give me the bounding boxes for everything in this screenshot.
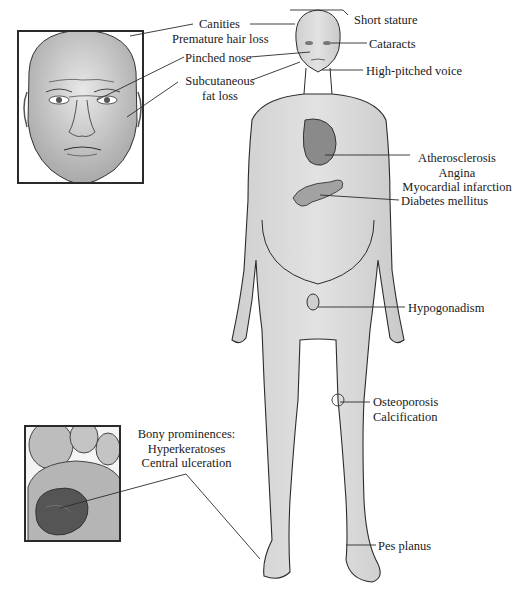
label-pinched-nose: Pinched nose: [185, 51, 251, 66]
label-pes-planus: Pes planus: [378, 539, 431, 554]
torso: [232, 94, 404, 582]
label-hypogonadism: Hypogonadism: [408, 301, 484, 316]
label-line: Subcutaneous: [180, 74, 260, 89]
label-line: Atherosclerosis: [398, 151, 515, 166]
label-knee: Osteoporosis Calcification: [373, 395, 438, 424]
label-short-stature: Short stature: [354, 13, 418, 28]
label-canities: Canities Premature hair loss: [172, 17, 267, 46]
label-line: Premature hair loss: [172, 32, 267, 47]
label-line: Myocardial infarction: [398, 180, 515, 195]
label-high-pitched-voice: High-pitched voice: [366, 64, 462, 79]
label-line: Angina: [398, 166, 515, 181]
label-line: fat loss: [180, 89, 260, 104]
label-diabetes-mellitus: Diabetes mellitus: [401, 194, 488, 209]
label-line: Central ulceration: [134, 456, 239, 471]
head: [296, 10, 340, 94]
label-bony-prominences: Bony prominences: Hyperkeratoses Central…: [134, 427, 239, 471]
label-line: Canities: [172, 17, 267, 32]
label-line: Osteoporosis: [373, 395, 438, 410]
label-cataracts: Cataracts: [369, 37, 416, 52]
label-line: Bony prominences:: [134, 427, 239, 442]
label-line: Hyperkeratoses: [134, 442, 239, 457]
label-line: Calcification: [373, 410, 438, 425]
label-heart: Atherosclerosis Angina Myocardial infarc…: [398, 151, 515, 195]
label-subcutaneous-fat-loss: Subcutaneous fat loss: [180, 74, 260, 103]
